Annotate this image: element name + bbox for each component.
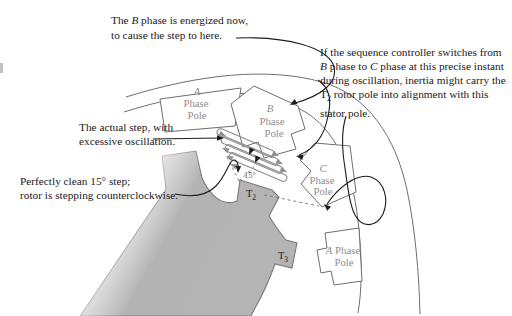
pole-b-line2: Phase: [259, 115, 284, 127]
text-run: phase at this precise instant: [377, 60, 503, 72]
annotation-line: B phase to C phase at this precise insta…: [320, 59, 506, 73]
pole-a-bottom-line1: A Phase: [325, 244, 361, 256]
angle-15-label: 15°: [244, 170, 256, 180]
pole-a-bottom-line2: Pole: [334, 256, 353, 268]
annotation-b-energized: The B phase is energized now, to cause t…: [111, 13, 248, 42]
text-run: T: [320, 88, 327, 100]
annotation-line: rotor is stepping counterclockwise.: [20, 188, 178, 202]
text-run: rotor pole into alignment with this: [331, 88, 489, 100]
annotation-line: during oscillation, inertia might carry …: [320, 73, 506, 87]
t2-subscript: 2: [252, 193, 256, 202]
pole-b-line3: Pole: [264, 127, 283, 139]
annotation-line: The B phase is energized now,: [111, 13, 248, 28]
pole-a-top-letter: A: [193, 85, 201, 97]
text-run: phase is energized now,: [138, 14, 248, 26]
pole-a-bottom-line1-rest: Phase: [332, 244, 360, 256]
annotation-line: The actual step, with: [79, 121, 175, 135]
annotation-clean-step: Perfectly clean 15° step; rotor is stepp…: [20, 174, 178, 202]
pole-b-letter: B: [267, 102, 274, 114]
pole-a-top-line2: Phase: [183, 97, 208, 109]
annotation-actual-step: The actual step, with excessive oscillat…: [79, 121, 175, 148]
pole-c-letter: C: [319, 162, 327, 174]
pole-c-line3: Pole: [313, 185, 332, 197]
stepper-motor-figure: A Phase Pole B Phase Pole C Phase Pole A…: [0, 0, 512, 316]
t3-subscript: 3: [284, 255, 288, 264]
text-run: phase to: [327, 60, 370, 72]
annotation-line: to cause the step to here.: [111, 28, 248, 43]
annotation-line: stator pole.: [320, 106, 506, 120]
pole-a-top-line3: Pole: [187, 109, 206, 121]
annotation-line: If the sequence controller switches from: [320, 45, 506, 59]
annotation-line: excessive oscillation.: [79, 135, 175, 149]
text-run: The: [111, 14, 131, 26]
leader-arrow-icon: [235, 166, 241, 173]
annotation-line: T2 rotor pole into alignment with this: [320, 87, 506, 106]
annotation-sequence-controller: If the sequence controller switches from…: [320, 45, 506, 120]
annotation-line: Perfectly clean 15° step;: [20, 174, 178, 188]
italic-b: B: [320, 60, 327, 72]
scan-artifact: [0, 63, 3, 73]
